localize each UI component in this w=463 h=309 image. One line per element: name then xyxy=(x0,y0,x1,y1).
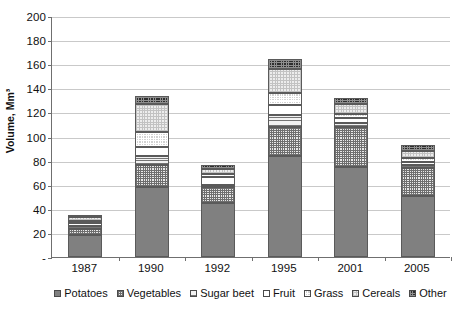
chart-legend: PotatoesVegetablesSugar beetFruitGrassCe… xyxy=(51,284,450,302)
y-axis-tick xyxy=(48,210,52,211)
stacked-bar xyxy=(68,16,102,257)
bar-segment xyxy=(135,96,169,104)
stacked-bar xyxy=(401,16,435,257)
bar-segment xyxy=(68,221,102,223)
stacked-bar xyxy=(135,16,169,257)
bar-segment xyxy=(268,59,302,69)
x-axis-label: 1987 xyxy=(71,262,97,274)
y-axis-tick xyxy=(48,113,52,114)
bar-segment xyxy=(68,226,102,230)
bar-segment xyxy=(201,169,235,174)
y-axis-tick-label: 140 xyxy=(27,83,47,95)
legend-swatch-icon xyxy=(263,290,270,297)
legend-item-label: Cereals xyxy=(362,287,400,299)
x-axis-tick xyxy=(119,257,120,261)
bar-group xyxy=(201,16,235,257)
legend-item[interactable]: Fruit xyxy=(263,287,295,299)
bar-segment xyxy=(268,93,302,105)
y-axis-tick-label: 120 xyxy=(27,107,47,119)
y-axis-tick-label: 100 xyxy=(27,132,47,144)
legend-item[interactable]: Grass xyxy=(304,287,343,299)
y-axis-tick xyxy=(48,162,52,163)
gridline xyxy=(52,210,450,211)
legend-swatch-icon xyxy=(409,290,416,297)
bar-segment xyxy=(201,185,235,187)
y-axis-tick-label: 180 xyxy=(27,35,47,47)
y-axis-title: Volume, Mm³ xyxy=(2,0,18,241)
bar-segment xyxy=(401,151,435,158)
bar-segment xyxy=(68,217,102,221)
bar-segment xyxy=(201,174,235,178)
bar-segment xyxy=(401,158,435,162)
gridline xyxy=(52,186,450,187)
y-axis-tick xyxy=(48,41,52,42)
legend-item-label: Potatoes xyxy=(64,287,107,299)
bar-group xyxy=(135,16,169,257)
legend-item-label: Other xyxy=(419,287,447,299)
bar-segment xyxy=(401,165,435,167)
gridline xyxy=(52,113,450,114)
x-axis-label: 1995 xyxy=(271,262,297,274)
plot-area: -20406080100120140160180200 xyxy=(51,17,450,258)
legend-item-label: Vegetables xyxy=(127,287,181,299)
bar-group xyxy=(68,16,102,257)
stacked-bar xyxy=(268,16,302,257)
legend-item[interactable]: Cereals xyxy=(352,287,400,299)
bar-segment xyxy=(135,104,169,132)
legend-item[interactable]: Other xyxy=(409,287,447,299)
bar-segment xyxy=(401,145,435,151)
legend-swatch-icon xyxy=(304,290,311,297)
bar-segment xyxy=(334,118,368,123)
gridline xyxy=(52,89,450,90)
x-axis-tick xyxy=(185,257,186,261)
y-axis-tick xyxy=(48,89,52,90)
bar-segment xyxy=(334,127,368,167)
x-axis-tick xyxy=(385,257,386,261)
bar-segment xyxy=(135,187,169,257)
bar-segment xyxy=(68,223,102,225)
x-axis-label: 1990 xyxy=(138,262,164,274)
y-axis-tick-label: 160 xyxy=(27,59,47,71)
bar-group xyxy=(401,16,435,257)
x-axis-label: 1992 xyxy=(204,262,230,274)
legend-item[interactable]: Potatoes xyxy=(54,287,107,299)
legend-swatch-icon xyxy=(54,290,61,297)
y-axis-tick xyxy=(48,258,52,259)
bar-segment xyxy=(201,203,235,257)
bar-segment xyxy=(201,187,235,203)
bar-segment xyxy=(334,104,368,114)
x-axis-tick xyxy=(252,257,253,261)
gridline xyxy=(52,234,450,235)
x-axis-tick xyxy=(451,257,452,261)
legend-swatch-icon xyxy=(352,290,359,297)
y-axis-tick xyxy=(48,65,52,66)
gridline xyxy=(52,17,450,18)
x-axis-label: 2005 xyxy=(404,262,430,274)
bar-segment xyxy=(201,165,235,169)
stacked-bar-chart: Volume, Mm³ -20406080100120140160180200 … xyxy=(0,0,463,309)
y-axis-tick-label: 60 xyxy=(33,180,46,192)
x-axis-label: 2001 xyxy=(337,262,363,274)
legend-item-label: Fruit xyxy=(273,287,295,299)
y-axis-tick xyxy=(48,17,52,18)
y-axis-tick-label: 40 xyxy=(33,204,46,216)
bar-segment xyxy=(334,114,368,119)
bar-segment xyxy=(268,115,302,127)
bar-segment xyxy=(135,147,169,155)
bar-segment xyxy=(334,98,368,104)
y-axis-tick-label: 200 xyxy=(27,11,47,23)
bar-group xyxy=(334,16,368,257)
legend-item[interactable]: Sugar beet xyxy=(190,287,254,299)
bar-segment xyxy=(135,165,169,187)
gridline xyxy=(52,41,450,42)
legend-swatch-icon xyxy=(117,290,124,297)
y-axis-tick-label: 80 xyxy=(33,156,46,168)
bar-group xyxy=(268,16,302,257)
bar-segment xyxy=(268,105,302,115)
legend-item[interactable]: Vegetables xyxy=(117,287,181,299)
gridline xyxy=(52,138,450,139)
bar-segment xyxy=(268,156,302,257)
legend-item-label: Sugar beet xyxy=(200,287,254,299)
bar-segment xyxy=(201,177,235,184)
bar-segment xyxy=(68,235,102,257)
